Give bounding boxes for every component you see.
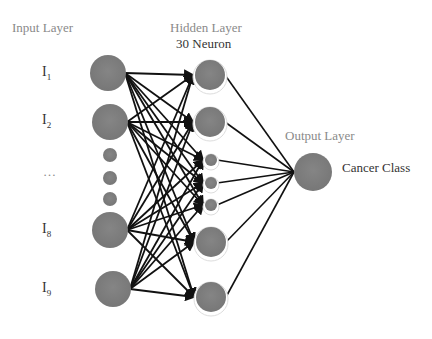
hidden-neuron [196, 282, 226, 312]
neuron-nodes [90, 55, 332, 316]
input-label-i8: I8 [42, 221, 51, 239]
input-layer-title: Input Layer [12, 20, 73, 36]
input-neuron [92, 104, 128, 140]
input-label-ellipsis: … [43, 164, 56, 180]
input-neuron [103, 171, 117, 185]
input-neuron [95, 271, 131, 307]
input-label-sub: 1 [47, 72, 52, 82]
input-label-i1: I1 [42, 64, 51, 82]
input-neuron [90, 55, 126, 91]
hidden-neuron [196, 227, 226, 257]
hidden-neuron [205, 177, 217, 189]
input-neuron [92, 212, 128, 248]
input-label-i2: I2 [42, 112, 51, 130]
hidden-layer-count: 30 Neuron [176, 36, 231, 52]
input-label-sub: 9 [47, 288, 52, 298]
input-neuron [103, 192, 117, 206]
input-neuron [103, 148, 117, 162]
input-label-sub: 8 [47, 229, 52, 239]
input-label-text: … [43, 164, 56, 179]
output-layer-title: Output Layer [285, 128, 355, 144]
hidden-neuron [195, 60, 225, 90]
output-class-label: Cancer Class [342, 160, 410, 176]
hidden-neuron [195, 107, 225, 137]
hidden-layer-title: Hidden Layer [170, 20, 242, 36]
hidden-neuron [205, 199, 217, 211]
output-neuron [294, 153, 332, 191]
hidden-neuron [205, 154, 217, 166]
input-label-sub: 2 [47, 120, 52, 130]
input-label-i9: I9 [42, 280, 51, 298]
